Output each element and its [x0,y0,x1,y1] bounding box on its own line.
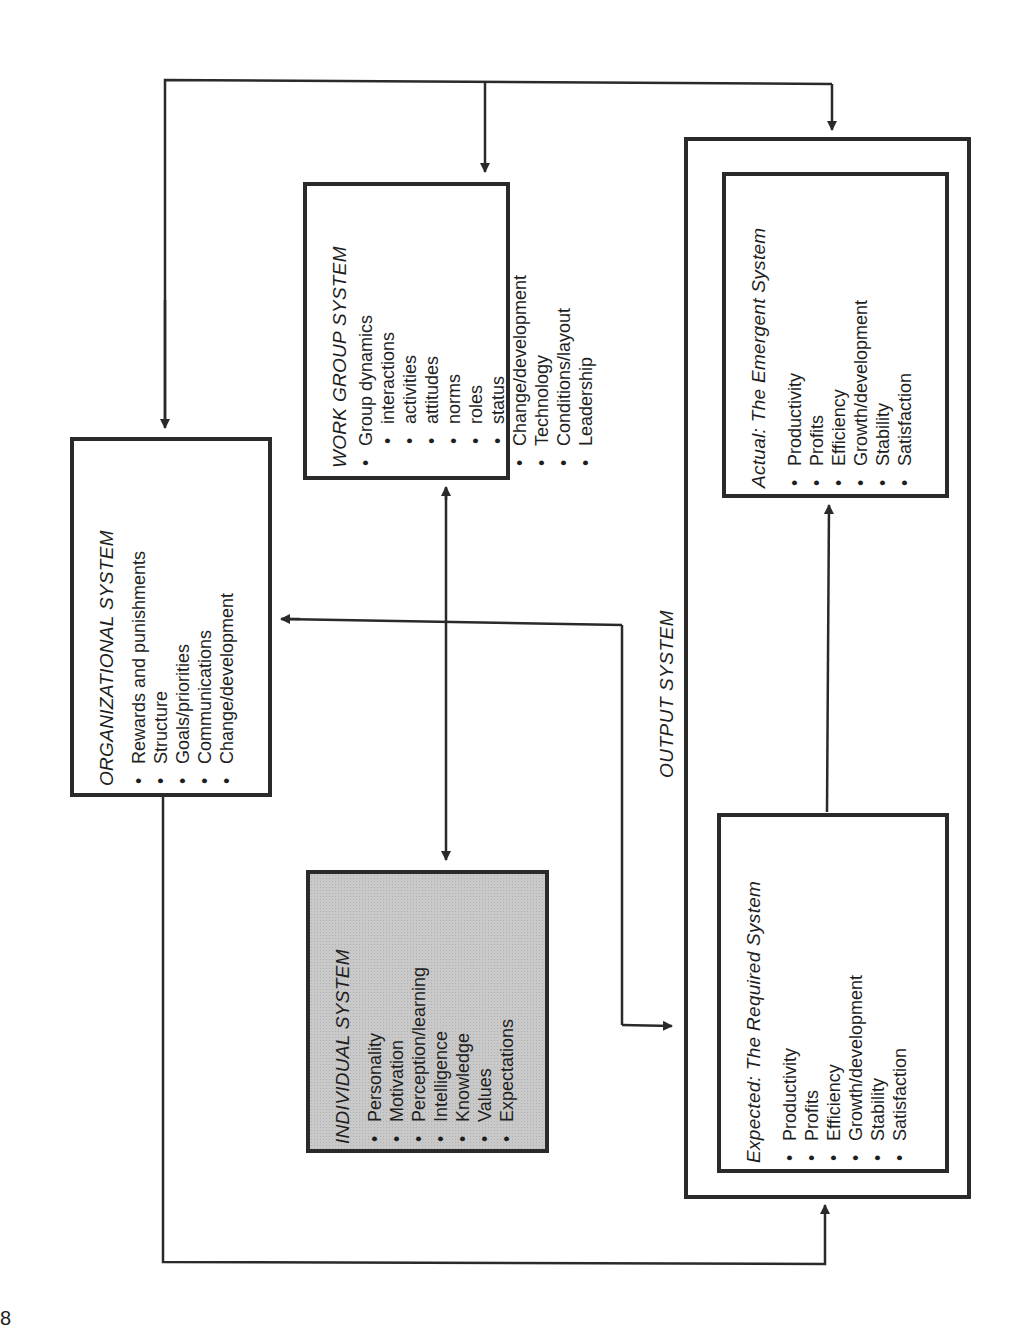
list-item: Change/development [216,456,238,786]
list-item: interactions [377,198,399,468]
list-item: Conditions/layout [553,198,575,468]
list-item: Stability [872,188,894,488]
list-item: Goals/priorities [172,456,194,786]
list-item: Productivity [779,833,801,1163]
list-item: Values [474,884,496,1144]
list-item: Personality [364,884,386,1144]
individual-system-title: INDIVIDUAL SYSTEM [332,884,354,1144]
individual-items: Personality Motivation Perception/learni… [364,884,518,1144]
list-item: Growth/development [845,833,867,1163]
list-item: Profits [801,833,823,1163]
expected-items: Productivity Profits Efficiency Growth/d… [779,833,911,1163]
list-item: Knowledge [452,884,474,1144]
list-item: activities [399,198,421,468]
list-item: Growth/development [850,188,872,488]
list-item: Technology [531,198,553,468]
list-item: Leadership [575,198,597,468]
list-item: Satisfaction [889,833,911,1163]
list-item: Communications [194,456,216,786]
page-number: 8 [0,1308,11,1328]
list-item: Structure [150,456,172,786]
list-item: Perception/learning [408,884,430,1144]
output-system-title: OUTPUT SYSTEM [656,610,678,778]
list-item: Efficiency [823,833,845,1163]
organizational-system-title: ORGANIZATIONAL SYSTEM [96,456,118,786]
list-item: roles [465,198,487,468]
list-item: Group dynamics [355,198,377,468]
list-item: Motivation [386,884,408,1144]
list-item: Efficiency [828,188,850,488]
arrow-to-expected-box [622,1025,672,1026]
individual-system-box: INDIVIDUAL SYSTEM Personality Motivation… [306,870,549,1153]
work-group-items: Group dynamics interactions activities a… [355,198,597,468]
work-group-system-title: WORK GROUP SYSTEM [329,198,351,468]
work-group-system-box: WORK GROUP SYSTEM Group dynamics interac… [303,182,510,480]
list-item: Expectations [496,884,518,1144]
organizational-system-box: ORGANIZATIONAL SYSTEM Rewards and punish… [70,437,272,797]
list-item: status [487,198,509,468]
actual-system-box: Actual: The Emergent System Productivity… [722,172,949,498]
list-item: Stability [867,833,889,1163]
list-item: Intelligence [430,884,452,1144]
actual-items: Productivity Profits Efficiency Growth/d… [784,188,916,488]
list-item: Change/development [509,198,531,468]
actual-system-title: Actual: The Emergent System [748,188,770,488]
expected-system-title: Expected: The Required System [743,833,765,1163]
organizational-items: Rewards and punishments Structure Goals/… [128,456,238,786]
list-item: Profits [806,188,828,488]
list-item: norms [443,198,465,468]
list-item: Satisfaction [894,188,916,488]
list-item: Productivity [784,188,806,488]
list-item: attitudes [421,198,443,468]
expected-system-box: Expected: The Required System Productivi… [717,813,949,1173]
list-item: Rewards and punishments [128,456,150,786]
